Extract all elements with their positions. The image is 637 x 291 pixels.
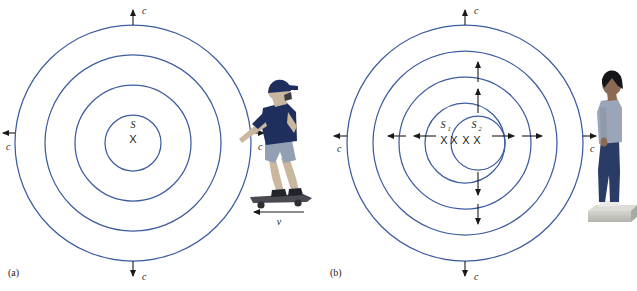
c-label-down: c [474,271,479,282]
source-marker-x: X [462,134,470,146]
figure-background [0,0,637,291]
c-label-left: c [337,143,342,154]
source-label-s: S [131,119,136,130]
c-label-down: c [142,271,147,282]
platform-front [588,211,631,222]
person-hand [601,137,608,146]
source-label-s1: S [441,119,446,130]
source-marker-x: X [450,134,458,146]
c-label-right: c [258,141,263,152]
skater-shoe [271,189,287,197]
source-marker-x: X [129,133,137,145]
c-label-right: c [590,143,595,154]
source-marker-x: X [440,134,448,146]
panel-b-label: (b) [330,267,342,279]
c-label-left: c [6,141,11,152]
velocity-label-v: v [277,216,282,227]
source-label-s2: S [472,119,477,130]
skateboard-wheel [294,199,301,206]
source-subscript-1: 1 [447,125,450,132]
source-marker-x: X [473,134,481,146]
panel-a-label: (a) [8,267,19,279]
c-label-up: c [142,5,147,16]
c-label-up: c [474,5,479,16]
skater-shoe [288,188,303,196]
person-arm [600,107,607,140]
physics-wavefront-figure: S X c c c c [0,0,637,291]
skateboard-wheel [257,201,264,208]
